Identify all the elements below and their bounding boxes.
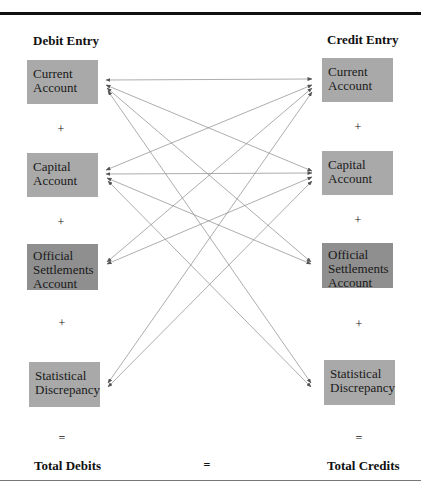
arrow-dcur-ccur — [106, 79, 312, 80]
arrow-dcap-ccap — [106, 173, 312, 174]
arrow-doff-ccap — [107, 177, 312, 264]
bottom-rule — [0, 480, 421, 481]
connection-arrows — [0, 0, 421, 492]
arrow-dstat-ccur — [108, 92, 312, 383]
